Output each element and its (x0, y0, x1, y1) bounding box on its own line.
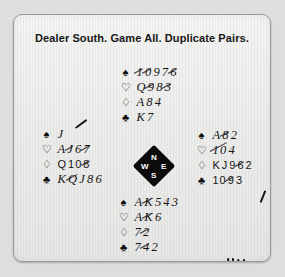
stray-pen-mark-right (260, 190, 266, 203)
compass-label-south: S (151, 172, 156, 180)
spade-icon: ♠ (118, 197, 129, 208)
heart-icon: ♡ (41, 144, 52, 155)
diamond-icon: ♢ (120, 97, 131, 108)
north-hearts-row: ♡ Q983 (120, 80, 178, 95)
east-diamonds-row: ♢ KJ962 (196, 158, 253, 173)
compass-rose: N W E S (136, 148, 178, 190)
west-spades-row: ♠ J (41, 127, 103, 142)
east-spades-cards: A82 (212, 129, 239, 142)
compass-label-north: N (151, 154, 157, 162)
west-spades-cards: J (57, 128, 65, 141)
tally-marks (217, 258, 271, 262)
diamond-icon: ♢ (41, 159, 52, 170)
north-diamonds-cards: A84 (136, 96, 163, 109)
heart-icon: ♡ (196, 145, 207, 156)
west-hearts-row: ♡ AJ67 (41, 142, 103, 157)
west-hearts-cards: AJ67 (57, 143, 92, 156)
compass-label-west: W (141, 163, 149, 171)
club-icon: ♣ (120, 112, 131, 123)
screenshot-root: Dealer South. Game All. Duplicate Pairs.… (0, 0, 285, 277)
tally-stroke (227, 258, 231, 262)
west-diamonds-row: ♢ Q108 (41, 157, 103, 172)
spade-icon: ♠ (120, 67, 131, 78)
diamond-icon: ♢ (196, 160, 207, 171)
south-diamonds-cards: 72 (134, 226, 151, 239)
compass-diamond (133, 145, 175, 187)
south-spades-cards: AK543 (134, 196, 180, 209)
west-diamonds-cards: Q108 (57, 158, 91, 171)
north-clubs-row: ♣ K7 (120, 110, 178, 125)
bridge-deal-card: Dealer South. Game All. Duplicate Pairs.… (13, 14, 271, 262)
club-icon: ♣ (196, 175, 207, 186)
south-clubs-cards: 742 (134, 241, 159, 254)
east-hearts-cards: 104 (212, 144, 236, 157)
north-clubs-cards: K7 (136, 111, 155, 124)
deal-conditions-title: Dealer South. Game All. Duplicate Pairs. (14, 32, 270, 44)
club-icon: ♣ (118, 242, 129, 253)
compass-label-east: E (161, 163, 166, 171)
diamond-icon: ♢ (118, 227, 129, 238)
south-spades-row: ♠ AK543 (118, 195, 180, 210)
north-spades-row: ♠ 10976 (120, 65, 178, 80)
north-diamonds-row: ♢ A84 (120, 95, 178, 110)
south-hearts-cards: AK6 (134, 211, 163, 224)
hand-south: ♠ AK543 ♡ AK6 ♢ 72 ♣ 742 (118, 195, 180, 255)
tally-stroke (237, 259, 240, 262)
south-diamonds-row: ♢ 72 (118, 225, 180, 240)
heart-icon: ♡ (118, 212, 129, 223)
south-hearts-row: ♡ AK6 (118, 210, 180, 225)
north-spades-cards: 10976 (136, 66, 178, 79)
west-clubs-row: ♣ KQJ86 (41, 172, 103, 187)
tally-stroke (232, 258, 236, 262)
heart-icon: ♡ (120, 82, 131, 93)
club-icon: ♣ (41, 174, 52, 185)
east-hearts-row: ♡ 104 (196, 143, 253, 158)
east-spades-row: ♠ A82 (196, 128, 253, 143)
spade-icon: ♠ (196, 130, 207, 141)
east-clubs-cards: 1093 (212, 174, 244, 187)
east-clubs-row: ♣ 1093 (196, 173, 253, 188)
hand-east: ♠ A82 ♡ 104 ♢ KJ962 ♣ 1093 (196, 128, 253, 188)
north-hearts-cards: Q983 (136, 81, 173, 94)
south-clubs-row: ♣ 742 (118, 240, 180, 255)
spade-icon: ♠ (41, 129, 52, 140)
tally-stroke (243, 259, 247, 262)
hand-west: ♠ J ♡ AJ67 ♢ Q108 ♣ KQJ86 (41, 127, 103, 187)
west-clubs-cards: KQJ86 (57, 173, 103, 186)
east-diamonds-cards: KJ962 (212, 159, 253, 172)
hand-north: ♠ 10976 ♡ Q983 ♢ A84 ♣ K7 (120, 65, 178, 125)
tally-stroke (218, 261, 220, 262)
